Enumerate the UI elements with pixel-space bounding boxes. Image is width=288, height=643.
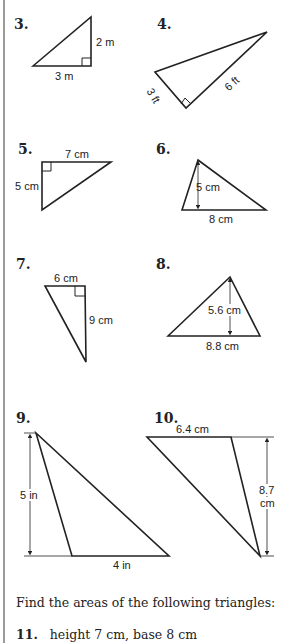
instructions: Find the areas of the following triangle… (16, 595, 275, 610)
triangle-5 (42, 162, 111, 210)
problem-number-4: 4. (157, 16, 172, 32)
label-8-base: 8.8 cm (206, 340, 239, 352)
label-9-height: 5 in (20, 489, 38, 501)
problem-number-8: 8. (156, 256, 171, 272)
triangle-4 (155, 32, 267, 108)
label-6-base: 8 cm (209, 213, 233, 225)
triangle-6 (182, 160, 266, 210)
problem-11: 11.height 7 cm, base 8 cm (16, 627, 197, 642)
triangle-figures (0, 0, 288, 643)
label-6-height: 5 cm (196, 181, 220, 193)
triangle-7 (45, 286, 86, 362)
problem-number-5: 5. (18, 141, 33, 157)
problem-11-text: height 7 cm, base 8 cm (50, 627, 197, 642)
triangle-3 (33, 17, 91, 66)
triangle-9 (24, 433, 169, 556)
problem-number-6: 6. (156, 141, 171, 157)
label-5-side: 5 cm (15, 180, 39, 192)
label-10-height-value: 8.7 (259, 484, 274, 496)
label-3-base: 3 m (55, 70, 73, 82)
label-7-side: 9 cm (89, 314, 113, 326)
label-10-height-unit: cm (260, 497, 275, 509)
problem-number-3: 3. (14, 16, 29, 32)
label-5-top: 7 cm (65, 148, 89, 160)
label-10-top: 6.4 cm (176, 423, 209, 435)
label-8-height: 5.6 cm (208, 304, 241, 316)
label-7-top: 6 cm (54, 272, 78, 284)
problem-number-10: 10. (154, 410, 178, 426)
triangle-10 (147, 437, 274, 556)
problem-number-11: 11. (16, 627, 38, 642)
problem-number-7: 7. (16, 256, 31, 272)
label-3-height: 2 m (96, 36, 114, 48)
problem-number-9: 9. (16, 410, 31, 426)
label-9-base: 4 in (113, 559, 131, 571)
